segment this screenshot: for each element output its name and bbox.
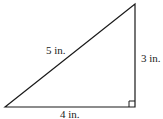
right-triangle [5,4,135,107]
triangle-figure [0,0,163,119]
horizontal-leg-label: 4 in. [60,109,80,119]
right-angle-marker [129,101,135,107]
hypotenuse-label: 5 in. [46,45,66,56]
vertical-leg-label: 3 in. [141,53,161,64]
